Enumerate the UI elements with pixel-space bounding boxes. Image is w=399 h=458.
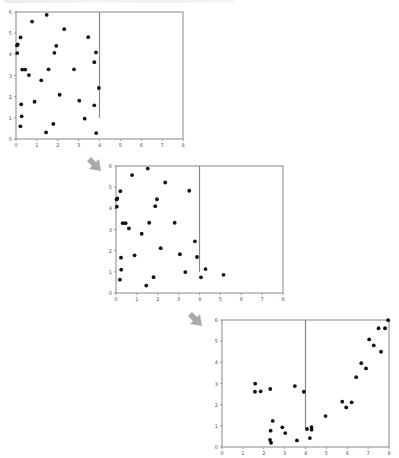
- y-tick-label: 5: [109, 184, 112, 190]
- x-tick-label: 7: [261, 296, 264, 302]
- y-tick-label: 2: [215, 402, 218, 408]
- data-point: [364, 367, 368, 371]
- data-point: [340, 400, 344, 404]
- data-point: [118, 189, 122, 193]
- data-point: [146, 167, 150, 171]
- data-point: [58, 93, 62, 97]
- data-point: [152, 275, 156, 279]
- scatter-panel-3: 0123456780123456: [208, 306, 399, 458]
- data-point: [72, 67, 76, 71]
- x-tick-label: 5: [325, 450, 328, 456]
- y-tick-label: 0: [109, 290, 112, 296]
- data-point: [193, 239, 197, 243]
- data-point: [53, 51, 57, 55]
- data-point: [94, 51, 98, 55]
- data-point: [187, 189, 191, 193]
- data-point: [178, 252, 182, 256]
- data-point: [97, 86, 101, 90]
- x-tick-label: 0: [114, 296, 117, 302]
- x-tick-label: 1: [35, 142, 38, 148]
- y-tick-label: 5: [9, 30, 12, 36]
- y-tick-label: 3: [109, 227, 112, 233]
- data-point: [77, 99, 81, 103]
- data-point: [92, 103, 96, 107]
- data-point: [15, 51, 19, 55]
- data-point: [379, 350, 383, 354]
- data-point: [94, 131, 98, 135]
- y-tick-label: 6: [215, 317, 218, 323]
- data-point: [18, 124, 22, 128]
- x-tick-label: 2: [156, 296, 159, 302]
- data-point: [115, 198, 119, 202]
- data-point: [140, 232, 144, 236]
- data-point: [133, 253, 137, 257]
- data-point: [15, 44, 19, 48]
- data-point: [199, 275, 203, 279]
- data-point: [305, 427, 309, 431]
- y-tick-label: 4: [215, 359, 218, 365]
- x-tick-label: 8: [181, 142, 184, 148]
- data-point: [33, 100, 37, 104]
- data-point: [383, 326, 387, 330]
- x-tick-label: 3: [283, 450, 286, 456]
- data-point: [47, 67, 51, 71]
- data-point: [39, 78, 43, 82]
- data-point: [386, 318, 390, 322]
- x-tick-label: 7: [161, 142, 164, 148]
- x-tick-label: 8: [281, 296, 284, 302]
- data-point: [283, 431, 287, 435]
- data-point: [268, 387, 272, 391]
- down-right-arrow-icon: [187, 311, 204, 328]
- data-point: [173, 221, 177, 225]
- data-point: [183, 270, 187, 274]
- data-point: [30, 20, 34, 24]
- scatter-panel-1: 0123456780123456: [2, 0, 197, 153]
- data-point: [222, 273, 226, 277]
- data-point: [269, 429, 273, 433]
- data-point: [23, 68, 27, 72]
- data-point: [83, 117, 87, 121]
- data-point: [163, 181, 167, 185]
- data-point: [118, 278, 122, 282]
- down-right-arrow-icon: [86, 156, 103, 173]
- data-point: [19, 102, 23, 106]
- data-point: [324, 414, 328, 418]
- data-point: [308, 436, 312, 440]
- data-point: [155, 197, 159, 201]
- data-point: [130, 173, 134, 177]
- data-point: [45, 13, 49, 17]
- data-point: [62, 27, 66, 31]
- y-tick-label: 2: [109, 248, 112, 254]
- data-point: [119, 268, 123, 272]
- data-point: [124, 221, 128, 225]
- data-point: [44, 131, 48, 135]
- x-tick-label: 8: [387, 450, 390, 456]
- data-point: [280, 425, 284, 429]
- data-point: [359, 361, 363, 365]
- data-point: [27, 73, 31, 77]
- x-tick-label: 4: [198, 296, 201, 302]
- data-point: [119, 256, 123, 260]
- y-tick-label: 0: [215, 444, 218, 450]
- y-tick-label: 0: [9, 136, 12, 142]
- data-point: [367, 338, 371, 342]
- data-point: [269, 441, 273, 445]
- x-tick-label: 3: [77, 142, 80, 148]
- data-point: [259, 389, 263, 393]
- x-tick-label: 1: [241, 450, 244, 456]
- data-point: [51, 122, 55, 126]
- x-tick-label: 5: [219, 296, 222, 302]
- y-tick-label: 4: [109, 205, 112, 211]
- data-point: [354, 375, 358, 379]
- x-tick-label: 6: [346, 450, 349, 456]
- data-point: [310, 428, 314, 432]
- data-point: [195, 255, 199, 259]
- x-tick-label: 3: [177, 296, 180, 302]
- data-point: [350, 400, 354, 404]
- data-point: [54, 44, 58, 48]
- data-point: [147, 221, 151, 225]
- y-tick-label: 4: [9, 51, 12, 57]
- y-tick-label: 1: [109, 269, 112, 275]
- data-point: [377, 326, 381, 330]
- x-tick-label: 1: [135, 296, 138, 302]
